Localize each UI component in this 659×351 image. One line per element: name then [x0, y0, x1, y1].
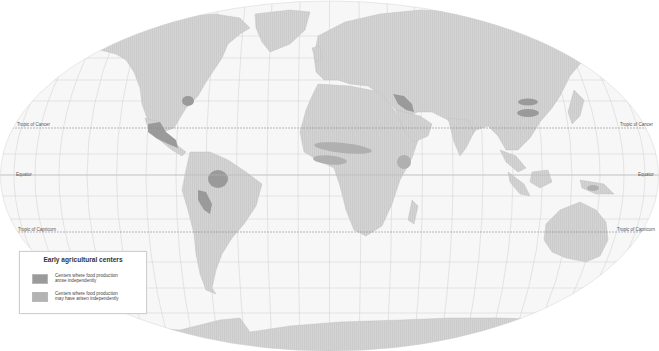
legend-title: Early agricultural centers	[20, 256, 146, 263]
center-north-china	[518, 99, 538, 106]
tropic-of-cancer-label-left: Tropic of Cancer	[17, 122, 50, 127]
center-amazonia	[208, 170, 228, 188]
legend-item-possible: Centers where food production may have a…	[32, 291, 135, 302]
center-ethiopia	[397, 155, 411, 169]
center-new-guinea	[587, 185, 599, 191]
tropic-of-capricorn-label-left: Tropic of Capricorn	[18, 227, 56, 232]
legend-label-line: arose independently	[55, 278, 135, 283]
landmass-new-zealand	[622, 270, 632, 290]
center-south-china	[517, 109, 539, 117]
tropic-of-cancer-label-right: Tropic of Cancer	[620, 122, 653, 127]
legend-swatch-independent	[32, 274, 48, 284]
legend-item-independent: Centers where food production arose inde…	[32, 273, 135, 284]
equator-label-right: Equator	[638, 172, 654, 177]
center-eastern-north-america	[182, 96, 194, 106]
legend-label-line: may have arisen independently	[55, 296, 135, 301]
landmass-antarctica	[40, 318, 640, 351]
map-legend: Early agricultural centers Centers where…	[19, 251, 147, 314]
equator-label-left: Equator	[16, 172, 32, 177]
legend-swatch-possible	[32, 292, 48, 302]
tropic-of-capricorn-label-right: Tropic of Capricorn	[617, 227, 655, 232]
